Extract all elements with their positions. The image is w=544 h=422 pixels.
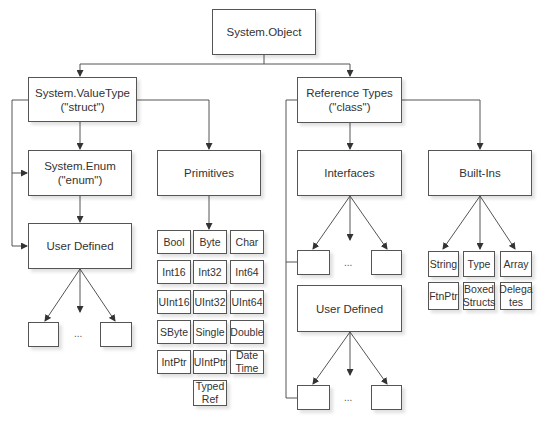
interface-child-node [371,250,402,275]
ref-ud-child-node [297,385,330,410]
primitive-cell: Date Time [230,350,264,374]
primitive-cell: SByte [157,320,191,344]
value-ud-child-node [28,322,59,347]
interfaces-node: Interfaces [297,150,402,196]
primitive-cell: UInt64 [230,290,264,314]
ellipsis: ... [74,328,82,339]
primitive-cell: UInt16 [157,290,191,314]
ref-user-defined-node: User Defined [297,285,402,332]
built-ins-node: Built-Ins [428,150,532,196]
interface-child-node [297,250,330,275]
builtin-cell: Array [500,251,532,277]
primitive-cell: Byte [193,230,227,254]
value-type-node: System.ValueType ("struct") [28,77,137,122]
ellipsis: ... [344,257,352,268]
primitives-node: Primitives [157,150,261,196]
primitive-cell: Typed Ref [193,380,227,406]
primitive-cell: Single [193,320,227,344]
enum-node: System.Enum ("enum") [28,150,132,196]
builtin-cell: String [428,251,459,277]
reference-types-node: Reference Types ("class") [297,77,402,123]
primitive-cell: IntPtr [157,350,191,374]
value-ud-child-node [100,322,132,347]
primitive-cell: Int64 [230,260,264,284]
primitive-cell: Int32 [193,260,227,284]
builtin-cell: Type [463,251,495,277]
builtin-cell: FtnPtr [428,282,459,310]
ref-ud-child-node [371,385,402,410]
value-user-defined-node: User Defined [28,223,132,269]
primitive-cell: Int16 [157,260,191,284]
primitive-cell: UInt32 [193,290,227,314]
primitive-cell: Bool [157,230,191,254]
builtin-cell: Delega tes [500,282,532,310]
primitive-cell: Char [230,230,264,254]
connector-lines [0,0,544,422]
ellipsis: ... [344,392,352,403]
system-object-node: System.Object [212,9,316,55]
primitive-cell: UIntPtr [193,350,227,374]
primitive-cell: Double [230,320,264,344]
builtin-cell: Boxed Structs [463,282,495,310]
